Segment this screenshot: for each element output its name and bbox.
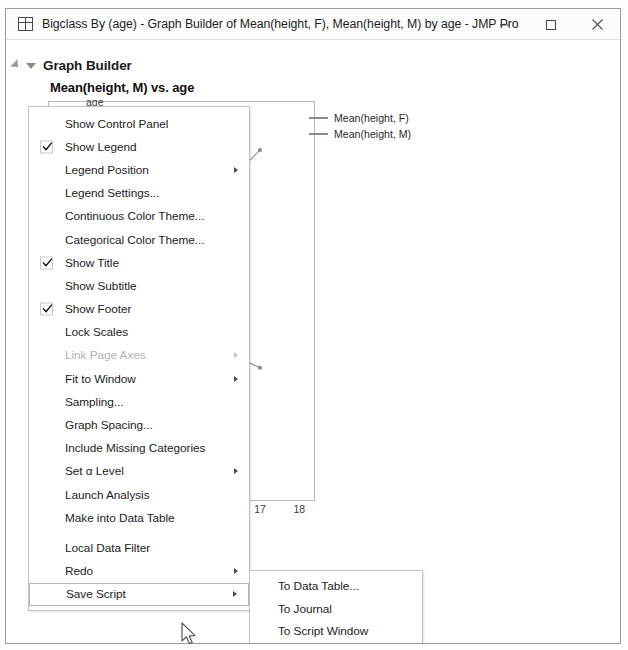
series-point — [258, 366, 262, 370]
menu-item-label: Continuous Color Theme... — [65, 209, 205, 223]
chart-title: Mean(height, M) vs. age — [50, 80, 194, 95]
menu-item-label: Legend Position — [65, 163, 149, 177]
menu-item-show-legend[interactable]: Show Legend — [29, 135, 249, 158]
window-title: Bigclass By (age) - Graph Builder of Mea… — [42, 17, 519, 31]
menu-item-set-level[interactable]: Set α Level — [29, 460, 249, 483]
menu-item-categorical-color-theme[interactable]: Categorical Color Theme... — [29, 228, 249, 251]
menu-item-label: Launch Analysis — [65, 488, 150, 502]
menu-item-make-into-data-table[interactable]: Make into Data Table — [29, 506, 249, 529]
menu-item-show-control-panel[interactable]: Show Control Panel — [29, 112, 249, 135]
legend-label: Mean(height, M) — [334, 128, 411, 140]
menu-item-label: Categorical Color Theme... — [65, 233, 204, 247]
menu-item-label: Graph Spacing... — [65, 418, 153, 432]
menu-item-link-page-axes: Link Page Axes — [29, 344, 249, 367]
menu-item-lock-scales[interactable]: Lock Scales — [29, 321, 249, 344]
legend-entry[interactable]: Mean(height, F) — [309, 111, 459, 124]
menu-item-graph-spacing[interactable]: Graph Spacing... — [29, 413, 249, 436]
submenu-arrow-icon — [234, 568, 238, 574]
menu-item-save-script[interactable]: Save Script — [29, 583, 249, 606]
legend-swatch-icon — [309, 117, 328, 119]
menu-item-legend-position[interactable]: Legend Position — [29, 158, 249, 181]
menu-item-label: Sampling... — [65, 395, 123, 409]
submenu-item-label: To Data Table... — [278, 579, 359, 593]
window-titlebar: Bigclass By (age) - Graph Builder of Mea… — [6, 9, 620, 40]
outline-node-graph-builder[interactable]: Graph Builder — [11, 56, 132, 74]
submenu-arrow-icon — [234, 352, 238, 358]
menu-item-label: Local Data Filter — [65, 541, 150, 555]
submenu-item-label: To Script Window — [278, 624, 368, 638]
menu-item-label: Make into Data Table — [65, 511, 175, 525]
submenu-item-to-journal[interactable]: To Journal — [250, 598, 422, 621]
menu-separator — [29, 529, 249, 536]
graph-builder-context-menu[interactable]: Show Control PanelShow LegendLegend Posi… — [28, 106, 250, 611]
menu-item-label: Link Page Axes — [65, 348, 146, 362]
menu-item-launch-analysis[interactable]: Launch Analysis — [29, 483, 249, 506]
menu-item-label: Show Title — [65, 256, 119, 270]
menu-item-label: Show Control Panel — [65, 117, 168, 131]
menu-item-fit-to-window[interactable]: Fit to Window — [29, 367, 249, 390]
menu-item-redo[interactable]: Redo — [29, 560, 249, 583]
outline-title: Graph Builder — [43, 58, 132, 73]
menu-item-show-title[interactable]: Show Title — [29, 251, 249, 274]
check-icon — [40, 303, 53, 316]
menu-item-sampling[interactable]: Sampling... — [29, 390, 249, 413]
x-tick-label: 18 — [293, 503, 305, 515]
menu-item-label: Redo — [65, 564, 93, 578]
close-button[interactable] — [574, 9, 620, 40]
submenu-item-to-script-window[interactable]: To Script Window — [250, 620, 422, 643]
minimize-button[interactable] — [482, 9, 528, 40]
red-triangle-menu-icon[interactable] — [26, 63, 36, 69]
submenu-arrow-icon — [234, 167, 238, 173]
x-tick-label: 17 — [254, 503, 266, 515]
menu-item-label: Show Legend — [65, 140, 137, 154]
menu-item-continuous-color-theme[interactable]: Continuous Color Theme... — [29, 205, 249, 228]
disclosure-triangle-icon[interactable] — [10, 59, 21, 70]
menu-item-label: Show Footer — [65, 302, 131, 316]
submenu-item-label: To Journal — [278, 602, 332, 616]
jmp-window: Bigclass By (age) - Graph Builder of Mea… — [0, 0, 628, 650]
check-icon — [40, 140, 53, 153]
legend-label: Mean(height, F) — [334, 112, 409, 124]
submenu-arrow-icon — [233, 591, 237, 597]
window-controls — [482, 9, 620, 40]
check-icon — [40, 256, 53, 269]
menu-item-include-missing-categories[interactable]: Include Missing Categories — [29, 437, 249, 460]
menu-item-show-footer[interactable]: Show Footer — [29, 298, 249, 321]
submenu-arrow-icon — [234, 376, 238, 382]
series-point — [258, 148, 262, 152]
menu-item-label: Save Script — [66, 587, 126, 601]
data-table-icon — [18, 17, 33, 31]
report-body: Graph Builder Mean(height, M) vs. age 14… — [6, 40, 620, 643]
menu-item-label: Show Subtitle — [65, 279, 137, 293]
submenu-item-to-data-table[interactable]: To Data Table... — [250, 575, 422, 598]
legend-entry[interactable]: Mean(height, M) — [309, 127, 459, 140]
menu-item-label: Fit to Window — [65, 372, 136, 386]
menu-item-label: Include Missing Categories — [65, 441, 205, 455]
submenu-arrow-icon — [234, 468, 238, 474]
maximize-button[interactable] — [528, 9, 574, 40]
menu-item-show-subtitle[interactable]: Show Subtitle — [29, 274, 249, 297]
menu-item-legend-settings[interactable]: Legend Settings... — [29, 182, 249, 205]
save-script-submenu[interactable]: To Data Table...To JournalTo Script Wind… — [249, 570, 423, 643]
chart-legend: Mean(height, F)Mean(height, M) — [309, 111, 459, 143]
menu-item-label: Legend Settings... — [65, 186, 159, 200]
menu-item-label: Lock Scales — [65, 325, 128, 339]
menu-item-label: Set α Level — [65, 464, 124, 478]
menu-item-local-data-filter[interactable]: Local Data Filter — [29, 536, 249, 559]
legend-swatch-icon — [309, 133, 328, 135]
